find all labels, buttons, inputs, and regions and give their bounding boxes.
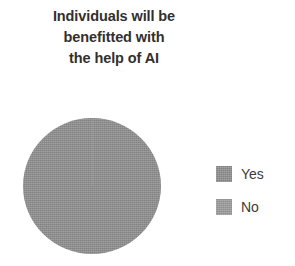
pie-chart-plot-area bbox=[0, 104, 200, 266]
legend-swatch-no-icon bbox=[216, 199, 232, 215]
legend-swatch-texture bbox=[216, 199, 232, 215]
legend-label-yes: Yes bbox=[241, 166, 264, 182]
page-title-line-3: the help of AI bbox=[0, 48, 228, 69]
legend-swatch-yes-icon bbox=[216, 166, 232, 182]
legend-item-no[interactable]: No bbox=[216, 190, 295, 223]
legend-swatch-texture bbox=[216, 166, 232, 182]
pie-slice-no[interactable] bbox=[92, 118, 93, 186]
pie-chart bbox=[23, 118, 161, 254]
page-title-line-1: Individuals will be bbox=[0, 6, 228, 27]
legend-item-yes[interactable]: Yes bbox=[216, 157, 295, 190]
page-title: Individuals will be benefitted with the … bbox=[0, 6, 228, 69]
page-title-line-2: benefitted with bbox=[0, 27, 228, 48]
chart-legend: Yes No bbox=[216, 157, 295, 223]
legend-label-no: No bbox=[241, 199, 259, 215]
